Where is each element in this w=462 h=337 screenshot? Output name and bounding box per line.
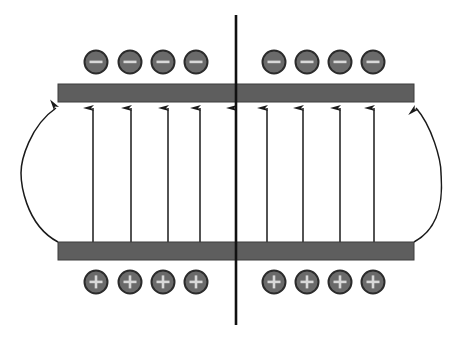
plus-icon: [95, 275, 98, 288]
positive-charge: [329, 271, 352, 294]
minus-icon: [301, 61, 314, 64]
minus-icon: [124, 61, 137, 64]
negative-charge: [296, 51, 319, 74]
plus-icon: [339, 275, 342, 288]
positive-charge: [263, 271, 286, 294]
plus-icon: [306, 275, 309, 288]
positive-charge: [185, 271, 208, 294]
positive-charge: [362, 271, 385, 294]
negative-charge: [85, 51, 108, 74]
plus-icon: [129, 275, 132, 288]
positive-charge: [85, 271, 108, 294]
minus-icon: [90, 61, 103, 64]
capacitor-diagram-svg: [0, 0, 462, 337]
positive-charge: [152, 271, 175, 294]
plus-icon: [162, 275, 165, 288]
minus-icon: [367, 61, 380, 64]
negative-charge: [119, 51, 142, 74]
negative-charge: [362, 51, 385, 74]
positive-charge: [119, 271, 142, 294]
capacitor-figure: [0, 0, 462, 337]
negative-charge: [263, 51, 286, 74]
minus-icon: [334, 61, 347, 64]
plus-icon: [195, 275, 198, 288]
minus-icon: [157, 61, 170, 64]
positive-charge: [296, 271, 319, 294]
plus-icon: [273, 275, 276, 288]
negative-charge: [329, 51, 352, 74]
minus-icon: [268, 61, 281, 64]
figure-background: [0, 0, 462, 337]
minus-icon: [190, 61, 203, 64]
negative-charge: [185, 51, 208, 74]
plus-icon: [372, 275, 375, 288]
negative-charge: [152, 51, 175, 74]
